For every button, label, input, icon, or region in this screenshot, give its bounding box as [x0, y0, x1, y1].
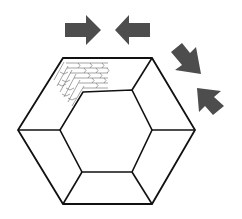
- arrow-down-right-icon: [171, 43, 201, 74]
- brick-pattern: [54, 62, 109, 106]
- inner-hexagon: [60, 90, 152, 172]
- diagram-canvas: Hexagonal frame with compressive force a…: [0, 0, 242, 219]
- arrow-up-left-icon: [197, 88, 224, 115]
- hexagon-frame-diagram: [0, 0, 242, 219]
- frame-segment-edges: [18, 58, 195, 204]
- arrow-left-icon: [115, 15, 150, 45]
- arrow-right-icon: [65, 15, 101, 45]
- outer-hexagon: [18, 58, 195, 204]
